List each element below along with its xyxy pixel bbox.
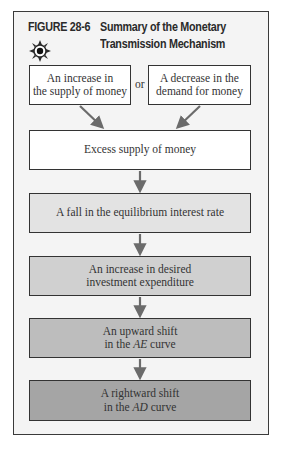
arrow-left-to-excess (80, 106, 101, 126)
arrow-right-to-excess (179, 106, 200, 126)
flow-arrows (0, 0, 285, 455)
